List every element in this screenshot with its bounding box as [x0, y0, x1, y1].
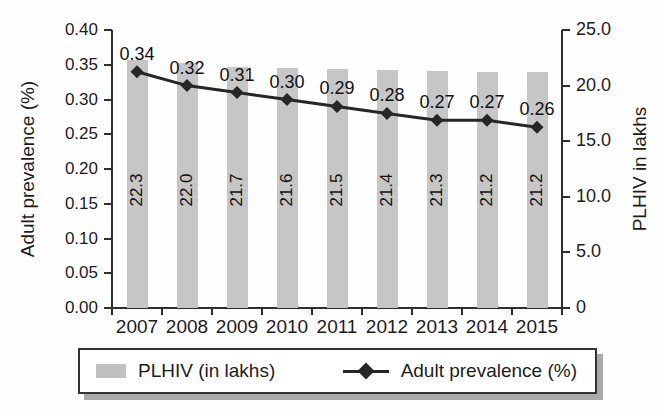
x-axis-label: 2013: [412, 316, 462, 338]
left-axis-tick: [104, 133, 112, 135]
left-axis-title: Adult prevalence (%): [16, 29, 40, 309]
right-axis-title: PLHIV in lakhs: [628, 29, 652, 309]
right-axis-tick-label: 10.0: [576, 187, 628, 205]
left-axis-tick-label: 0.15: [44, 195, 98, 213]
left-axis-tick-label: 0.00: [44, 299, 98, 317]
x-axis-label: 2009: [212, 316, 262, 338]
left-axis-tick: [104, 203, 112, 205]
left-axis-tick-label: 0.05: [44, 264, 98, 282]
x-axis-tick: [561, 308, 563, 315]
x-axis-tick: [511, 308, 513, 315]
left-axis-tick-label: 0.30: [44, 91, 98, 109]
right-axis-tick: [562, 29, 570, 31]
x-axis-tick: [111, 308, 113, 315]
left-axis-tick: [104, 99, 112, 101]
left-axis-tick-label: 0.10: [44, 230, 98, 248]
x-axis-label: 2010: [262, 316, 312, 338]
prevalence-marker: [181, 79, 194, 92]
right-axis-tick-label: 20.0: [576, 76, 628, 94]
x-axis-label: 2014: [462, 316, 512, 338]
left-axis-tick: [104, 272, 112, 274]
right-axis-tick-label: 5.0: [576, 242, 628, 260]
right-axis-tick: [562, 85, 570, 87]
prevalence-marker: [431, 114, 444, 127]
x-axis-tick: [361, 308, 363, 315]
x-axis-tick: [411, 308, 413, 315]
chart-legend: PLHIV (in lakhs) Adult prevalence (%): [78, 348, 597, 394]
x-axis-tick: [161, 308, 163, 315]
diamond-line-icon: [343, 364, 389, 378]
right-axis-tick: [562, 307, 570, 309]
right-axis-tick: [562, 251, 570, 253]
x-axis-tick: [211, 308, 213, 315]
x-axis-label: 2012: [362, 316, 412, 338]
left-axis-tick-label: 0.25: [44, 125, 98, 143]
bar-swatch-icon: [96, 364, 126, 378]
x-axis-label: 2007: [112, 316, 162, 338]
diamond-marker-icon: [357, 363, 374, 380]
x-axis-tick: [261, 308, 263, 315]
x-axis-tick: [461, 308, 463, 315]
prevalence-marker: [531, 121, 544, 134]
left-axis-tick-label: 0.20: [44, 160, 98, 178]
left-axis-tick: [104, 29, 112, 31]
right-axis-tick: [562, 196, 570, 198]
left-axis-tick-label: 0.40: [44, 21, 98, 39]
legend-label-prevalence: Adult prevalence (%): [401, 360, 577, 382]
x-axis-label: 2011: [312, 316, 362, 338]
x-axis-label: 2015: [512, 316, 562, 338]
prevalence-marker: [281, 93, 294, 106]
right-axis-tick: [562, 140, 570, 142]
right-axis-tick-label: 15.0: [576, 131, 628, 149]
prevalence-marker: [331, 100, 344, 113]
prevalence-marker: [131, 65, 144, 78]
x-axis-tick: [311, 308, 313, 315]
right-axis-tick-label: 25.0: [576, 20, 628, 38]
right-axis-tick-label: 0: [576, 298, 628, 316]
prevalence-marker: [381, 107, 394, 120]
chart-figure: Adult prevalence (%) PLHIV in lakhs PLHI…: [0, 0, 665, 412]
x-axis-label: 2008: [162, 316, 212, 338]
legend-label-plhiv: PLHIV (in lakhs): [138, 360, 275, 382]
legend-item-prevalence: Adult prevalence (%): [343, 360, 577, 382]
legend-item-plhiv: PLHIV (in lakhs): [96, 360, 275, 382]
prevalence-marker: [481, 114, 494, 127]
left-axis-tick: [104, 168, 112, 170]
prevalence-marker: [231, 86, 244, 99]
left-axis-tick-label: 0.35: [44, 56, 98, 74]
prevalence-value-label: 0.26: [507, 99, 567, 120]
left-axis-tick: [104, 238, 112, 240]
